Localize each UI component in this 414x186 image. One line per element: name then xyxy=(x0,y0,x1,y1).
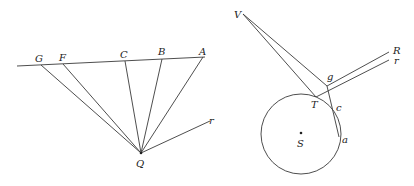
line-GA xyxy=(17,57,205,66)
label-F: F xyxy=(58,52,67,63)
left-figure: G F C B A Q r xyxy=(17,46,215,169)
label-Q: Q xyxy=(136,158,144,169)
label-g: g xyxy=(327,71,333,82)
label-C: C xyxy=(120,49,128,60)
label-B: B xyxy=(157,46,165,57)
line-QB xyxy=(141,59,162,153)
label-S: S xyxy=(297,138,304,149)
label-V: V xyxy=(234,9,243,20)
label-A: A xyxy=(198,46,206,57)
point-Q xyxy=(140,152,143,155)
label-T: T xyxy=(311,99,319,110)
label-c: c xyxy=(336,102,342,113)
line-QF xyxy=(63,64,141,153)
label-r-right: r xyxy=(394,55,400,66)
label-G: G xyxy=(35,53,43,64)
label-r-left: r xyxy=(209,115,215,126)
label-a: a xyxy=(342,134,348,145)
line-QG xyxy=(41,65,141,153)
line-QC xyxy=(125,61,141,153)
point-S xyxy=(300,132,303,135)
geometry-figures: G F C B A Q r V R r g T c S a xyxy=(0,0,414,186)
right-figure: V R r g T c S a xyxy=(234,9,401,174)
line-gR xyxy=(327,52,389,86)
line-Vg xyxy=(243,14,327,86)
line-VT xyxy=(243,14,316,97)
